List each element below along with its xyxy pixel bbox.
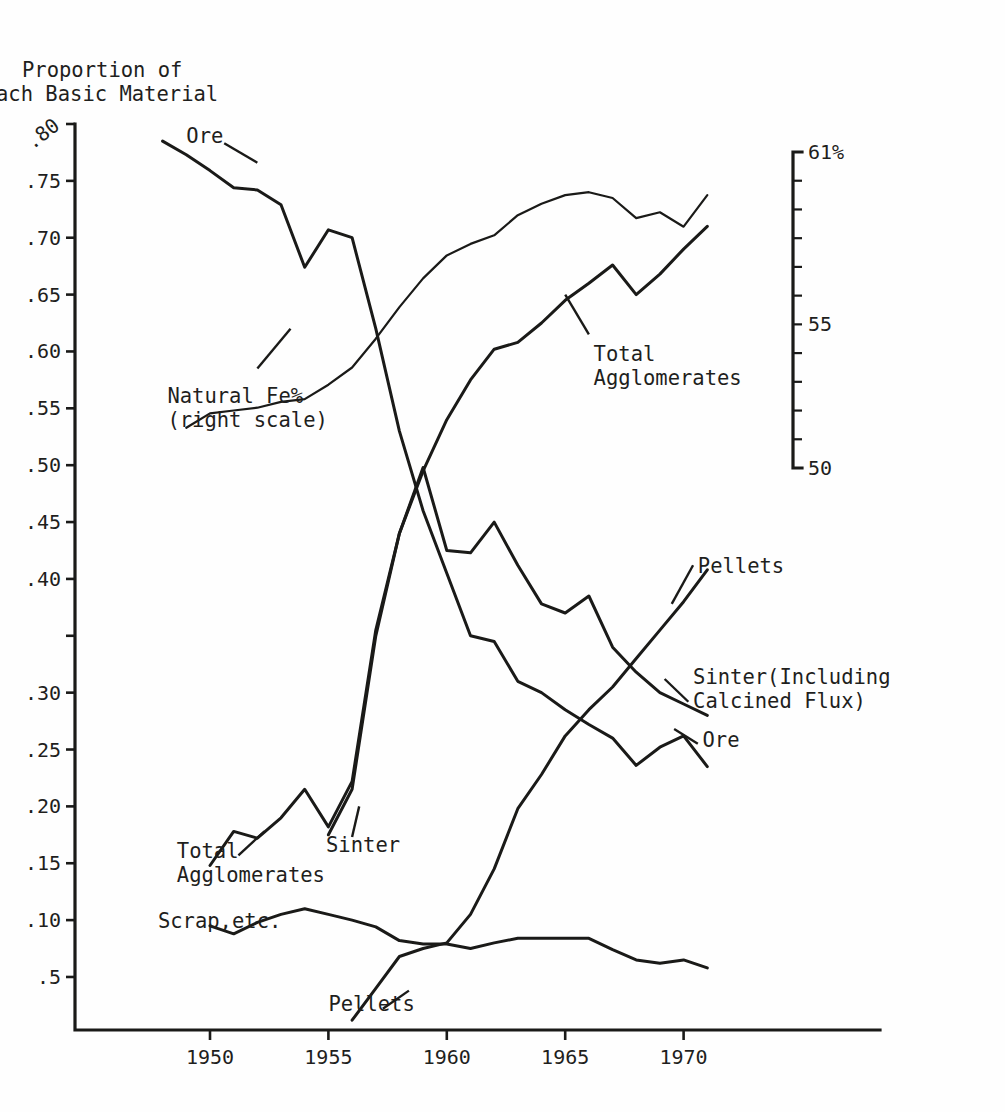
annotation-sinter-right-line2: Calcined Flux) xyxy=(693,689,866,713)
y-tick-label-0.45: .45 xyxy=(25,510,61,534)
leader-sinter-right xyxy=(665,679,689,702)
y-tick-label-0.5: .50 xyxy=(25,453,61,477)
leader-ore-left xyxy=(224,143,257,162)
y2-tick-label-50: 50 xyxy=(808,456,832,480)
leader-natural-fe xyxy=(257,329,290,369)
line-chart-figure: Proportion ofach Basic Material.80.75.70… xyxy=(0,0,1005,1112)
leader-ore-right xyxy=(674,729,698,744)
annotation-scrap: Scrap,etc. xyxy=(158,909,281,933)
y-tick-label-0.3: .30 xyxy=(25,681,61,705)
annotation-total-agg-left-line2: Agglomerates xyxy=(177,863,325,887)
series-line-total-agglomerates xyxy=(210,226,707,865)
y-tick-label-0.15: .15 xyxy=(25,851,61,875)
x-tick-label-1965: 1965 xyxy=(541,1045,589,1069)
annotation-sinter-bottom: Sinter xyxy=(326,833,400,857)
y-tick-label-0.65: .65 xyxy=(25,283,61,307)
annotation-ore-right: Ore xyxy=(703,728,740,752)
y2-tick-label-55: 55 xyxy=(808,312,832,336)
y-tick-label-0.8: .80 xyxy=(21,113,64,154)
y-tick-label-0.6: .60 xyxy=(25,339,61,363)
annotation-natural-fe-line1: Natural Fe% xyxy=(167,384,303,408)
y-tick-label-0.55: .55 xyxy=(25,396,61,420)
chart-root: Proportion ofach Basic Material.80.75.70… xyxy=(0,0,1005,1112)
x-tick-label-1970: 1970 xyxy=(660,1045,708,1069)
x-tick-label-1955: 1955 xyxy=(304,1045,352,1069)
y-tick-label-0.25: .25 xyxy=(25,738,61,762)
y-tick-label-0.2: .20 xyxy=(25,794,61,818)
chart-title-line2: ach Basic Material xyxy=(0,82,218,106)
x-tick-label-1960: 1960 xyxy=(423,1045,471,1069)
x-tick-label-1950: 1950 xyxy=(186,1045,234,1069)
annotation-total-agg-right-line1: Total xyxy=(594,342,656,366)
y-tick-label-0.4: .40 xyxy=(25,567,61,591)
leader-total-agg-right xyxy=(565,295,589,335)
leader-pellets-right xyxy=(672,565,693,604)
annotation-pellets-right: Pellets xyxy=(698,554,784,578)
y-tick-label-0.05: .5 xyxy=(37,965,61,989)
annotation-ore-left: Ore xyxy=(186,124,223,148)
series-line-scrap-etc xyxy=(210,909,707,968)
annotation-total-agg-left-line1: Total xyxy=(177,839,239,863)
right-axis xyxy=(793,152,802,468)
annotation-sinter-right-line1: Sinter(Including xyxy=(693,665,890,689)
annotation-natural-fe-line2: (right scale) xyxy=(167,408,327,432)
series-line-sinter-including-calcined-flux xyxy=(328,468,707,835)
annotation-total-agg-right-line2: Agglomerates xyxy=(594,366,742,390)
y-tick-label-0.7: .70 xyxy=(25,226,61,250)
y2-tick-label-61: 61% xyxy=(808,140,844,164)
chart-title-line1: Proportion of xyxy=(22,58,182,82)
series-line-pellets xyxy=(352,570,707,1020)
y-tick-label-0.75: .75 xyxy=(25,169,61,193)
y-tick-label-0.1: .10 xyxy=(25,908,61,932)
